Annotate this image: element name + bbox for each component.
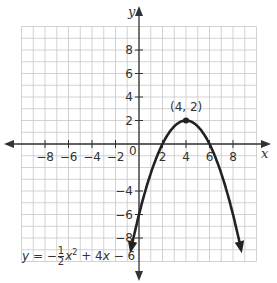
- curve-right-arrow-icon: [235, 240, 244, 253]
- eq-fraction: 12: [58, 246, 64, 267]
- eq-denominator: 2: [58, 257, 64, 267]
- eq-equals: = −: [29, 249, 57, 263]
- equation-label: y = −12x2 + 4x − 6: [22, 246, 135, 267]
- vertex-label: (4, 2): [170, 100, 202, 114]
- svg-text:8: 8: [125, 43, 133, 57]
- y-axis-down-arrow-icon: [135, 271, 143, 281]
- eq-constant: − 6: [110, 249, 135, 263]
- x-axis-left-arrow-icon: [4, 140, 14, 148]
- svg-text:2: 2: [125, 114, 133, 128]
- parabola-chart: −8−6−4−224688642−4−6−8 y x 0 (4, 2): [0, 0, 277, 283]
- svg-text:−6: −6: [115, 208, 133, 222]
- y-axis-label: y: [127, 4, 136, 19]
- x-axis-label: x: [261, 146, 269, 161]
- origin-label: 0: [129, 144, 137, 158]
- svg-text:6: 6: [125, 67, 133, 81]
- svg-text:−4: −4: [115, 184, 133, 198]
- svg-text:4: 4: [125, 90, 133, 104]
- svg-text:−6: −6: [60, 150, 78, 164]
- svg-text:−8: −8: [36, 150, 54, 164]
- svg-text:8: 8: [229, 150, 237, 164]
- y-axis-up-arrow-icon: [135, 6, 143, 16]
- eq-plus: + 4: [77, 249, 102, 263]
- eq-x2: x: [103, 249, 110, 263]
- svg-text:4: 4: [182, 150, 190, 164]
- svg-text:−2: −2: [107, 150, 125, 164]
- svg-text:−4: −4: [83, 150, 101, 164]
- x-axis: [4, 140, 271, 148]
- vertex-point: [183, 118, 189, 124]
